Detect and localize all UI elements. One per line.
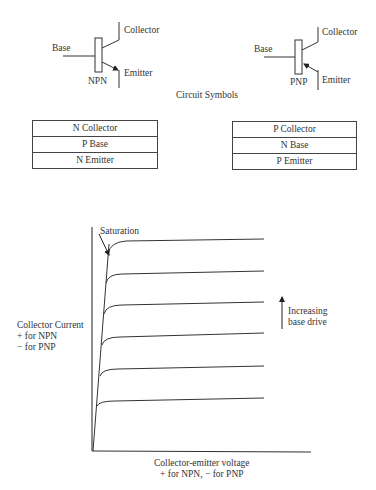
pnp-collector-label: Collector: [322, 27, 357, 38]
npn-emitter-label: Emitter: [124, 68, 153, 79]
circuit-symbols-caption: Circuit Symbols: [176, 90, 238, 101]
npn-base-label: Base: [52, 43, 70, 54]
npn-collector-label: Collector: [124, 25, 159, 36]
pnp-emitter-label: Emitter: [322, 75, 351, 86]
diagram-graphics: [0, 0, 376, 490]
saturation-arrow: [99, 234, 109, 255]
pnp-base-label: Base: [254, 44, 272, 55]
pnp-layer-stack: P Collector N Base P Emitter: [232, 121, 357, 170]
x-axis-label: Collector-emitter voltage: [154, 458, 250, 469]
npn-type-label: NPN: [88, 76, 107, 87]
characteristic-curves: [97, 239, 264, 406]
pnp-type-label: PNP: [290, 77, 307, 88]
pnp-layer: P Emitter: [233, 154, 356, 169]
increasing-label: Increasing: [288, 306, 328, 317]
saturation-label: Saturation: [100, 226, 139, 237]
base-drive-label: base drive: [288, 317, 327, 328]
npn-layer: P Base: [33, 137, 157, 153]
y-axis-sub-npn: + for NPN: [17, 331, 57, 342]
chart-axes: [92, 227, 311, 452]
npn-layer: N Collector: [33, 121, 157, 137]
x-axis-sub: + for NPN, − for PNP: [160, 469, 244, 480]
pnp-layer: N Base: [233, 138, 356, 154]
y-axis-label: Collector Current: [17, 320, 84, 331]
npn-layer-stack: N Collector P Base N Emitter: [32, 120, 158, 169]
pnp-layer: P Collector: [233, 122, 356, 138]
y-axis-sub-pnp: − for PNP: [17, 342, 56, 353]
saturation-line: [93, 244, 109, 451]
npn-layer: N Emitter: [33, 153, 157, 168]
